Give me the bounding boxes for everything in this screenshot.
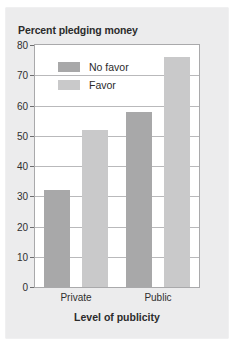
legend-swatch-icon xyxy=(58,62,80,72)
x-axis-title: Level of publicity xyxy=(34,311,200,323)
x-axis-tick-label: Private xyxy=(60,292,91,303)
y-axis-tick-mark xyxy=(30,75,34,76)
legend-item: No favor xyxy=(58,58,129,76)
y-axis-tick-mark xyxy=(30,196,34,197)
y-axis-tick-label: 70 xyxy=(0,70,28,81)
y-axis-tick-label: 80 xyxy=(0,40,28,51)
y-axis-tick-label: 60 xyxy=(0,100,28,111)
chart-title: Percent pledging money xyxy=(18,24,138,36)
y-axis-tick-mark xyxy=(30,136,34,137)
x-axis-tick-label: Public xyxy=(144,292,171,303)
y-axis-tick-mark xyxy=(30,257,34,258)
legend-label: Favor xyxy=(89,79,116,91)
y-axis-tick-mark xyxy=(30,287,34,288)
legend-label: No favor xyxy=(89,61,129,73)
y-axis-tick-mark xyxy=(30,227,34,228)
y-axis-tick-mark xyxy=(30,106,34,107)
bar-public-no-favor xyxy=(126,112,152,287)
chart-figure: Percent pledging money 01020304050607080… xyxy=(0,0,234,356)
bar-private-no-favor xyxy=(44,190,70,287)
legend-swatch-icon xyxy=(58,80,80,90)
y-axis-tick-label: 50 xyxy=(0,130,28,141)
legend-item: Favor xyxy=(58,76,129,94)
bar-public-favor xyxy=(164,57,190,287)
y-axis-tick-label: 20 xyxy=(0,221,28,232)
chart-legend: No favorFavor xyxy=(58,58,129,94)
y-axis-tick-label: 0 xyxy=(0,282,28,293)
y-axis-tick-mark xyxy=(30,45,34,46)
y-axis-tick-label: 10 xyxy=(0,251,28,262)
bar-private-favor xyxy=(82,130,108,287)
y-axis-tick-mark xyxy=(30,166,34,167)
y-axis-tick-label: 30 xyxy=(0,191,28,202)
y-axis-tick-label: 40 xyxy=(0,161,28,172)
